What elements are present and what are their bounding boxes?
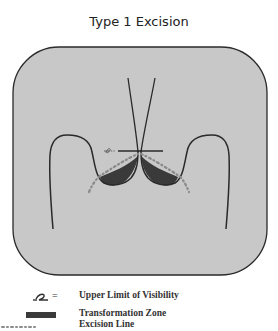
- upper-limit-equals: =: [52, 290, 58, 301]
- cervix-diagram: [0, 0, 278, 331]
- legend-item-upper-limit: = Upper Limit of Visibility: [0, 289, 278, 305]
- legend-item-excision-line: Excision Line: [0, 319, 278, 331]
- excision-line-legend-icon: [0, 319, 40, 331]
- legend-label-excision-line: Excision Line: [79, 319, 134, 329]
- legend-label-transformation-zone: Transformation Zone: [79, 308, 166, 318]
- legend-label-upper-limit: Upper Limit of Visibility: [79, 290, 179, 300]
